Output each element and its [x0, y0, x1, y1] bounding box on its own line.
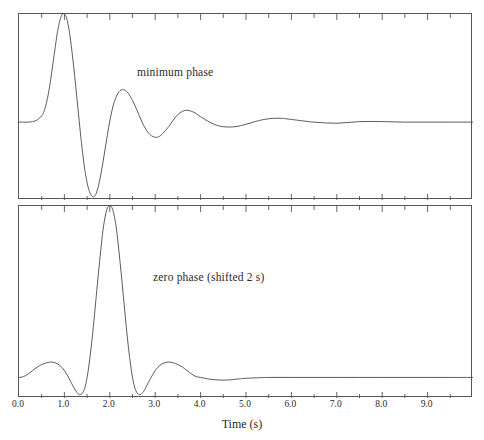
x-tick-label: 9.0 — [421, 399, 433, 409]
zero-phase-plot — [18, 205, 474, 399]
annotation-minimum-phase: minimum phase — [137, 66, 213, 78]
x-tick-label: 4.0 — [194, 399, 206, 409]
waveform-figure: minimum phase zero phase (shifted 2 s) 0… — [0, 0, 484, 440]
x-axis-title: Time (s) — [0, 417, 484, 432]
x-tick-label: 1.0 — [57, 399, 69, 409]
x-tick-label: 5.0 — [239, 399, 251, 409]
minimum-phase-plot — [18, 13, 474, 201]
x-tick-label: 8.0 — [375, 399, 387, 409]
waveform-curve — [19, 14, 473, 197]
waveform-curve — [19, 206, 473, 395]
panel-zero-phase — [18, 205, 472, 397]
annotation-zero-phase: zero phase (shifted 2 s) — [153, 271, 264, 283]
x-tick-label: 7.0 — [330, 399, 342, 409]
x-axis-tick-labels: 0.01.02.03.04.05.06.07.08.09.0 — [0, 399, 484, 415]
x-tick-label: 2.0 — [103, 399, 115, 409]
x-tick-label: 3.0 — [148, 399, 160, 409]
panel-minimum-phase — [18, 13, 472, 199]
x-tick-label: 6.0 — [284, 399, 296, 409]
x-tick-label: 0.0 — [12, 399, 24, 409]
